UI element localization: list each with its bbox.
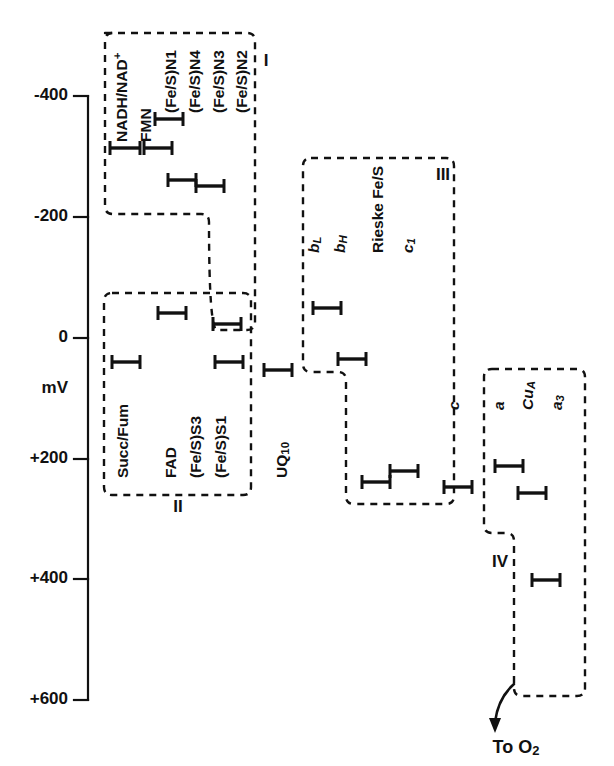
carrier-fsn2: (Fe/S)N2	[233, 50, 250, 113]
carrier-label-fss1: (Fe/S)S1	[212, 416, 229, 478]
canvas-background	[0, 0, 614, 766]
axis-label-minus200: -200	[34, 206, 68, 225]
carrier-label-a: a	[490, 401, 507, 410]
axis-label-plus600: +600	[30, 689, 68, 708]
carrier-label-c: c	[445, 401, 462, 410]
carrier-label-fss3: (Fe/S)S3	[187, 416, 204, 478]
axis-label-plus400: +400	[30, 568, 68, 587]
carrier-label-nadh-nad: NADH/NAD+	[111, 52, 130, 142]
carrier-label-fmn: FMN	[137, 108, 154, 142]
complex-label-i: I	[264, 51, 269, 70]
carrier-label-fsn3: (Fe/S)N3	[210, 50, 227, 113]
axis-label-minus400: -400	[34, 85, 68, 104]
axis-label-plus200: +200	[30, 448, 68, 467]
carrier-label-fad: FAD	[162, 447, 179, 478]
axis-label-zero: 0	[59, 327, 68, 346]
complex-label-iv: IV	[492, 552, 509, 571]
carrier-label-rieske: Rieske Fe/S	[369, 166, 386, 253]
redox-potential-diagram: -400 -200 0 +200 +400 +600 mV I II III I…	[0, 0, 614, 766]
carrier-label-fsn1: (Fe/S)N1	[162, 50, 179, 113]
carrier-label-fsn4: (Fe/S)N4	[186, 50, 203, 113]
axis-unit-label: mV	[42, 378, 69, 397]
carrier-label-fsn2: (Fe/S)N2	[233, 50, 250, 113]
carrier-label-succ-fum: Succ/Fum	[114, 404, 131, 478]
complex-label-iii: III	[436, 165, 450, 184]
complex-label-ii: II	[173, 497, 182, 516]
